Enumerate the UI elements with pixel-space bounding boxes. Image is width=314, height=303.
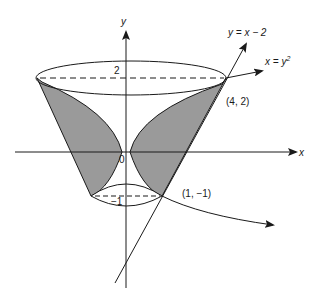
origin-label: 0: [119, 154, 125, 165]
y-axis-label: y: [120, 16, 127, 27]
tick-label-minus-1: −1: [111, 196, 123, 207]
shaded-region-left: [37, 78, 122, 196]
line-label: y = x − 2: [227, 27, 267, 38]
parabola-lower-arrow: [162, 196, 273, 225]
shaded-region-right: [130, 78, 226, 196]
tick-label-2: 2: [114, 65, 120, 76]
parabola-label: x = y2: [264, 55, 290, 67]
solid-of-revolution-diagram: y x 0 2 −1 y = x − 2 x = y2 (4, 2) (1, −…: [0, 0, 314, 303]
x-axis-label: x: [298, 147, 305, 158]
point-label-1-minus-1: (1, −1): [182, 188, 211, 199]
parabola-upper-arrow: [226, 71, 262, 78]
point-label-4-2: (4, 2): [226, 96, 249, 107]
